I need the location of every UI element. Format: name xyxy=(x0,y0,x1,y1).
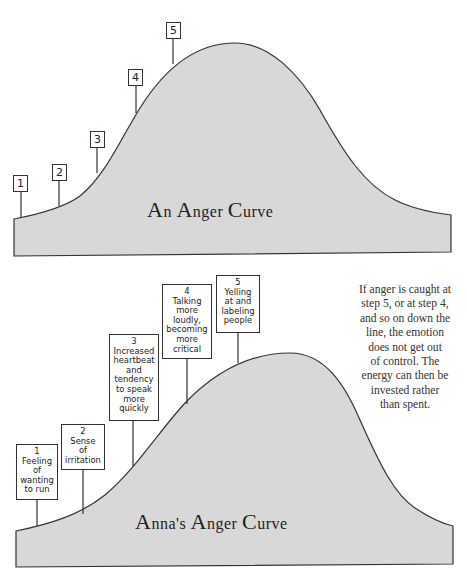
title-part: urve xyxy=(257,515,287,532)
title-part: urve xyxy=(243,203,273,220)
curve1-step-box-4: 4 xyxy=(128,69,143,86)
side-note: If anger is caught at step 5, or at step… xyxy=(346,283,464,413)
note-line: line, the emotion xyxy=(346,326,464,340)
title-part: A xyxy=(135,509,151,534)
box-line: irritation xyxy=(65,456,101,466)
box-line: people xyxy=(224,316,252,326)
curve2-step-box-2: 2 Sense of irritation xyxy=(61,424,105,470)
title-part: n xyxy=(163,203,176,220)
note-line: invested rather xyxy=(346,384,464,398)
title-part: C xyxy=(242,509,257,534)
curve2-step-box-1: 1 Feeling of wanting to run xyxy=(16,444,58,500)
curve2-step-box-3: 3 Increased heartbeat and tendency to sp… xyxy=(109,334,159,421)
box-line: quickly xyxy=(119,404,149,414)
curve1-step-box-5: 5 xyxy=(166,22,181,39)
curve1-step-box-2: 2 xyxy=(52,164,67,181)
curve2-step-box-4: 4 Talking more loudly, becoming more cri… xyxy=(162,284,212,359)
curve2-title: Anna's Anger Curve xyxy=(135,509,288,535)
title-part: nna's xyxy=(151,515,190,532)
note-line: and so on down the xyxy=(346,312,464,326)
curve2-step-box-5: 5 Yelling at and labeling people xyxy=(216,275,260,333)
title-part: nger xyxy=(207,515,242,532)
title-part: C xyxy=(228,197,243,222)
note-line: energy can then be xyxy=(346,369,464,383)
anger-curve-shape xyxy=(14,43,451,256)
title-part: A xyxy=(191,509,207,534)
note-line: than spent. xyxy=(346,398,464,412)
title-part: nger xyxy=(193,203,228,220)
note-line: does not get out xyxy=(346,341,464,355)
title-part: A xyxy=(147,197,163,222)
title-part: A xyxy=(176,197,192,222)
box-line: to run xyxy=(24,485,49,495)
curve1-step-box-3: 3 xyxy=(90,131,105,148)
box-line: critical xyxy=(173,345,201,355)
curve1-title: An Anger Curve xyxy=(147,197,273,223)
note-line: of control. The xyxy=(346,355,464,369)
note-line: step 5, or at step 4, xyxy=(346,297,464,311)
curve1-step-box-1: 1 xyxy=(13,175,28,192)
note-line: If anger is caught at xyxy=(346,283,464,297)
